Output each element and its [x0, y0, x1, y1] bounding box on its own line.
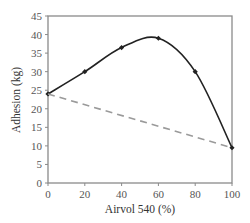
data-point-marker — [119, 45, 124, 50]
series-layer — [45, 36, 234, 151]
y-tick-label: 20 — [31, 103, 43, 115]
x-axis-ticks: 020406080100 — [45, 183, 241, 200]
y-axis-ticks: 051015202530354045 — [31, 10, 48, 189]
y-tick-label: 15 — [31, 121, 43, 133]
dashed-reference-line — [48, 94, 232, 148]
plot-border — [48, 16, 232, 183]
y-tick-label: 25 — [31, 84, 43, 96]
plot-frame — [48, 16, 232, 183]
x-tick-label: 20 — [79, 188, 91, 200]
x-axis-label: Airvol 540 (%) — [105, 203, 175, 216]
adhesion-curve — [48, 37, 232, 148]
y-axis-label: Adhesion (kg) — [10, 67, 23, 133]
x-tick-label: 0 — [45, 188, 51, 200]
y-tick-label: 0 — [37, 177, 43, 189]
data-point-marker — [156, 36, 161, 41]
y-tick-label: 30 — [31, 66, 43, 78]
x-tick-label: 80 — [190, 188, 202, 200]
y-tick-label: 40 — [31, 29, 43, 41]
x-tick-label: 40 — [116, 188, 128, 200]
x-tick-label: 60 — [153, 188, 165, 200]
y-tick-label: 45 — [31, 10, 43, 22]
y-tick-label: 10 — [31, 140, 43, 152]
adhesion-chart: 051015202530354045 020406080100 Airvol 5… — [0, 0, 250, 223]
x-tick-label: 100 — [224, 188, 241, 200]
y-tick-label: 5 — [37, 158, 43, 170]
y-tick-label: 35 — [31, 47, 43, 59]
